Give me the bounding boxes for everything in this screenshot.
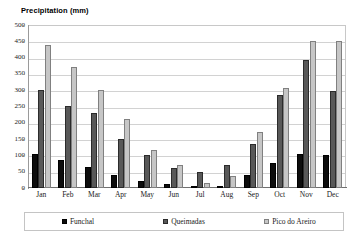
precipitation-bar-chart: Precipitation (mm) 050100150200250300350… bbox=[0, 0, 363, 246]
x-axis-tick-label: Jun bbox=[161, 190, 188, 200]
y-axis-tick bbox=[22, 90, 25, 91]
bar bbox=[144, 155, 150, 188]
bar bbox=[171, 168, 177, 188]
bar bbox=[224, 165, 230, 188]
y-axis-tick bbox=[22, 74, 25, 75]
chart-title: Precipitation (mm) bbox=[21, 6, 89, 15]
bar bbox=[45, 45, 51, 188]
x-axis-tick-label: Dec bbox=[320, 190, 347, 200]
bar bbox=[91, 113, 97, 188]
x-axis-tick-label: Jul bbox=[187, 190, 214, 200]
x-axis-tick-label: Mar bbox=[81, 190, 108, 200]
legend-label: Funchal bbox=[70, 217, 94, 226]
bar-group bbox=[55, 25, 82, 188]
bar bbox=[283, 88, 289, 188]
x-axis-tick-label: Oct bbox=[267, 190, 294, 200]
bar bbox=[85, 167, 91, 188]
bar bbox=[257, 132, 263, 188]
legend-item[interactable]: Funchal bbox=[25, 217, 131, 226]
bar-group bbox=[161, 25, 188, 188]
bar bbox=[204, 183, 210, 188]
y-axis-tick bbox=[22, 41, 25, 42]
bar-group bbox=[81, 25, 108, 188]
bar bbox=[138, 181, 144, 188]
bar-group bbox=[320, 25, 347, 188]
bar bbox=[297, 154, 303, 188]
y-axis-tick bbox=[22, 172, 25, 173]
bar bbox=[38, 90, 44, 188]
bar-group bbox=[28, 25, 55, 188]
bar bbox=[230, 176, 236, 188]
x-axis-tick-label: Sep bbox=[240, 190, 267, 200]
bar bbox=[151, 150, 157, 188]
legend-swatch-icon bbox=[163, 219, 168, 224]
x-axis-tick-label: Jan bbox=[28, 190, 55, 200]
x-axis-tick-label: Aug bbox=[214, 190, 241, 200]
bar-group bbox=[267, 25, 294, 188]
y-axis-tick bbox=[22, 155, 25, 156]
chart-legend: FunchalQueimadasPico do Areiro bbox=[24, 212, 344, 231]
bar bbox=[118, 139, 124, 188]
x-axis-tick-label: Feb bbox=[55, 190, 82, 200]
y-axis-tick bbox=[22, 25, 25, 26]
bar-group bbox=[293, 25, 320, 188]
bar bbox=[124, 119, 130, 188]
y-axis: 050100150200250300350400450500 bbox=[0, 25, 25, 188]
bar bbox=[98, 90, 104, 188]
legend-item[interactable]: Pico do Areiro bbox=[237, 217, 343, 226]
legend-swatch-icon bbox=[264, 219, 269, 224]
bars-layer bbox=[28, 25, 346, 188]
bar bbox=[217, 186, 223, 188]
legend-item[interactable]: Queimadas bbox=[131, 217, 237, 226]
y-axis-tick bbox=[22, 123, 25, 124]
bar bbox=[330, 91, 336, 188]
bar bbox=[336, 41, 342, 188]
bar bbox=[65, 106, 71, 188]
bar bbox=[303, 60, 309, 188]
bar-group bbox=[214, 25, 241, 188]
bar-group bbox=[187, 25, 214, 188]
legend-label: Queimadas bbox=[171, 217, 205, 226]
bar bbox=[32, 154, 38, 188]
bar bbox=[277, 95, 283, 188]
bar-group bbox=[108, 25, 135, 188]
bar bbox=[71, 67, 77, 188]
y-axis-tick bbox=[22, 188, 25, 189]
x-axis: JanFebMarAprMayJunJulAugSepOctNovDec bbox=[28, 190, 346, 204]
bar bbox=[250, 144, 256, 188]
x-axis-tick-label: Apr bbox=[108, 190, 135, 200]
y-axis-tick bbox=[22, 58, 25, 59]
bar-group bbox=[134, 25, 161, 188]
bar bbox=[58, 160, 64, 188]
bar-group bbox=[240, 25, 267, 188]
y-axis-tick bbox=[22, 139, 25, 140]
bar bbox=[111, 175, 117, 188]
bar bbox=[197, 172, 203, 188]
legend-swatch-icon bbox=[62, 219, 67, 224]
x-axis-tick-label: Nov bbox=[293, 190, 320, 200]
bar bbox=[323, 155, 329, 188]
bar bbox=[164, 184, 170, 188]
bar bbox=[191, 186, 197, 188]
bar bbox=[177, 165, 183, 188]
legend-label: Pico do Areiro bbox=[272, 217, 316, 226]
y-axis-tick bbox=[22, 107, 25, 108]
bar bbox=[270, 163, 276, 188]
legend-items: FunchalQueimadasPico do Areiro bbox=[25, 213, 343, 230]
bar bbox=[244, 175, 250, 188]
bar bbox=[310, 41, 316, 188]
x-axis-tick-label: May bbox=[134, 190, 161, 200]
